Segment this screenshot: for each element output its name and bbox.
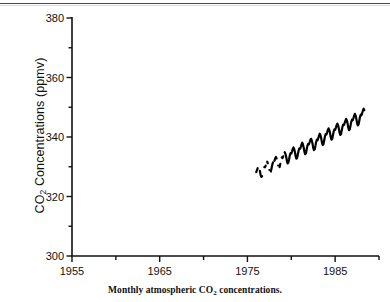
x-tick-label-1955: 1955 bbox=[60, 265, 84, 277]
series-segment bbox=[280, 164, 281, 167]
series-segment bbox=[271, 162, 273, 171]
y-axis-title-suffix: Concentrations (ppmv) bbox=[33, 58, 47, 190]
series-segment bbox=[260, 171, 262, 177]
series-segment bbox=[267, 162, 268, 163]
y-axis-title-prefix: CO bbox=[33, 195, 47, 214]
x-tick-label-1985: 1985 bbox=[323, 265, 347, 277]
series-segment bbox=[285, 109, 365, 164]
y-tick-label-300: 300 bbox=[46, 250, 64, 262]
y-tick-label-340: 340 bbox=[46, 131, 64, 143]
x-tick-label-1975: 1975 bbox=[235, 265, 259, 277]
figure-container: 3003203403603801955196519751985 CO2 Conc… bbox=[0, 0, 390, 302]
series-segment bbox=[274, 157, 276, 161]
y-axis-title-subscript: 2 bbox=[38, 190, 48, 195]
series-segment bbox=[256, 168, 257, 172]
series-segment bbox=[264, 166, 265, 168]
y-tick-label-380: 380 bbox=[46, 12, 64, 24]
data-series-group bbox=[256, 109, 364, 177]
y-tick-label-320: 320 bbox=[46, 191, 64, 203]
figure-caption: Monthly atmospheric CO2 concentrations. bbox=[0, 285, 390, 297]
caption-suffix: concentrations. bbox=[217, 285, 282, 295]
y-tick-label-360: 360 bbox=[46, 72, 64, 84]
series-segment bbox=[282, 156, 283, 158]
caption-prefix: Monthly atmospheric CO bbox=[108, 285, 213, 295]
chart-plot: 3003203403603801955196519751985 bbox=[0, 0, 390, 302]
x-tick-label-1965: 1965 bbox=[147, 265, 171, 277]
y-axis-title: CO2 Concentrations (ppmv) bbox=[33, 24, 48, 248]
